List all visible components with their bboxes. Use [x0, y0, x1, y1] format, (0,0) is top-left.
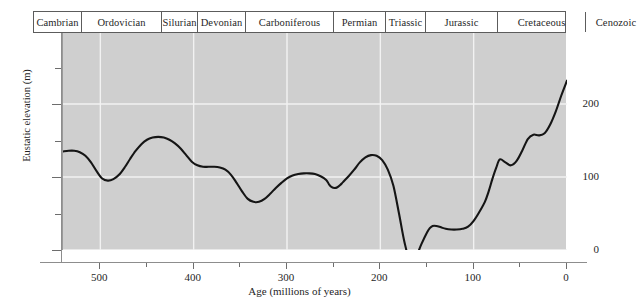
x-tick-400 — [193, 263, 194, 269]
x-tick-label-500: 500 — [77, 271, 121, 283]
y-minor-tick-50 — [55, 214, 61, 215]
x-tick-100 — [473, 263, 474, 269]
x-tick-label-100: 100 — [451, 271, 495, 283]
period-cell-ordovician: Ordovician — [82, 12, 162, 32]
x-axis-title: Age (millions of years) — [0, 285, 599, 297]
period-cell-jurassic: Jurassic — [426, 12, 498, 32]
period-cell-permian: Permian — [334, 12, 386, 32]
period-cell-devonian: Devonian — [198, 12, 246, 32]
period-cell-triassic: Triassic — [386, 12, 426, 32]
x-minor-tick-150 — [426, 263, 427, 267]
sea-level-curve — [63, 81, 567, 250]
x-minor-tick-450 — [146, 263, 147, 267]
y-tick-label-200: 200 — [555, 97, 599, 109]
x-axis-line — [40, 262, 587, 263]
y-tick-label-100: 100 — [555, 170, 599, 182]
x-tick-500 — [99, 263, 100, 269]
period-cell-cambrian: Cambrian — [34, 12, 82, 32]
x-tick-200 — [379, 263, 380, 269]
plot-area — [62, 33, 566, 250]
x-tick-label-200: 200 — [357, 271, 401, 283]
period-cell-cenozoic: Cenozoic — [586, 12, 641, 32]
period-cell-carboniferous: Carboniferous — [246, 12, 334, 32]
y-minor-tick-150 — [55, 141, 61, 142]
x-tick-label-400: 400 — [171, 271, 215, 283]
x-tick-0 — [566, 263, 567, 269]
y-axis-title: Eustatic elevation (m) — [21, 41, 32, 191]
period-cell-cretaceous: Cretaceous — [498, 12, 586, 32]
y-tick-0 — [52, 250, 61, 251]
y-tick-200 — [52, 104, 61, 105]
x-minor-tick-50 — [519, 263, 520, 267]
y-axis-line — [61, 33, 62, 263]
geologic-period-strip: CambrianOrdovicianSilurianDevonianCarbon… — [33, 11, 566, 33]
y-tick-label-0: 0 — [555, 243, 599, 255]
y-tick-100 — [52, 177, 61, 178]
x-tick-label-0: 0 — [544, 271, 588, 283]
period-cell-silurian: Silurian — [162, 12, 198, 32]
plot-svg — [63, 33, 567, 250]
x-minor-tick-250 — [333, 263, 334, 267]
x-tick-label-300: 300 — [264, 271, 308, 283]
x-tick-300 — [286, 263, 287, 269]
x-minor-tick-350 — [239, 263, 240, 267]
gridlines — [63, 33, 567, 250]
y-minor-tick-250 — [55, 68, 61, 69]
